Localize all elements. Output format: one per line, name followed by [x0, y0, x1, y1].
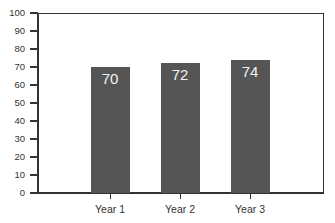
y-tick-label: 50 [1, 98, 25, 108]
x-tick-label: Year 2 [155, 203, 205, 215]
y-tick-mark [30, 30, 38, 32]
x-tick-mark [250, 194, 251, 199]
y-tick-label: 10 [1, 170, 25, 180]
y-tick-mark [30, 12, 38, 14]
bar-year-3: 74 [231, 60, 270, 193]
y-tick-mark [30, 174, 38, 176]
y-tick-mark [30, 192, 38, 194]
y-tick-label: 80 [1, 44, 25, 54]
y-tick-mark [30, 66, 38, 68]
x-tick-label: Year 3 [225, 203, 275, 215]
y-tick-mark [30, 138, 38, 140]
x-tick-label: Year 1 [85, 203, 135, 215]
bar-chart: 0102030405060708090100 707274 Year 1Year… [0, 0, 335, 223]
y-tick-label: 70 [1, 62, 25, 72]
y-tick-label: 0 [1, 188, 25, 198]
y-tick-mark [30, 48, 38, 50]
y-tick-label: 20 [1, 152, 25, 162]
y-tick-label: 90 [1, 26, 25, 36]
y-tick-mark [30, 102, 38, 104]
y-tick-mark [30, 84, 38, 86]
x-tick-mark [110, 194, 111, 199]
bar-year-1: 70 [91, 67, 130, 193]
y-tick-mark [30, 120, 38, 122]
y-tick-label: 100 [1, 8, 25, 18]
y-tick-label: 30 [1, 134, 25, 144]
bar-value-label: 74 [231, 64, 270, 80]
bar-value-label: 70 [91, 71, 130, 87]
bar-value-label: 72 [161, 67, 200, 83]
y-tick-label: 60 [1, 80, 25, 90]
y-tick-mark [30, 156, 38, 158]
x-tick-mark [180, 194, 181, 199]
y-tick-label: 40 [1, 116, 25, 126]
bar-year-2: 72 [161, 63, 200, 193]
